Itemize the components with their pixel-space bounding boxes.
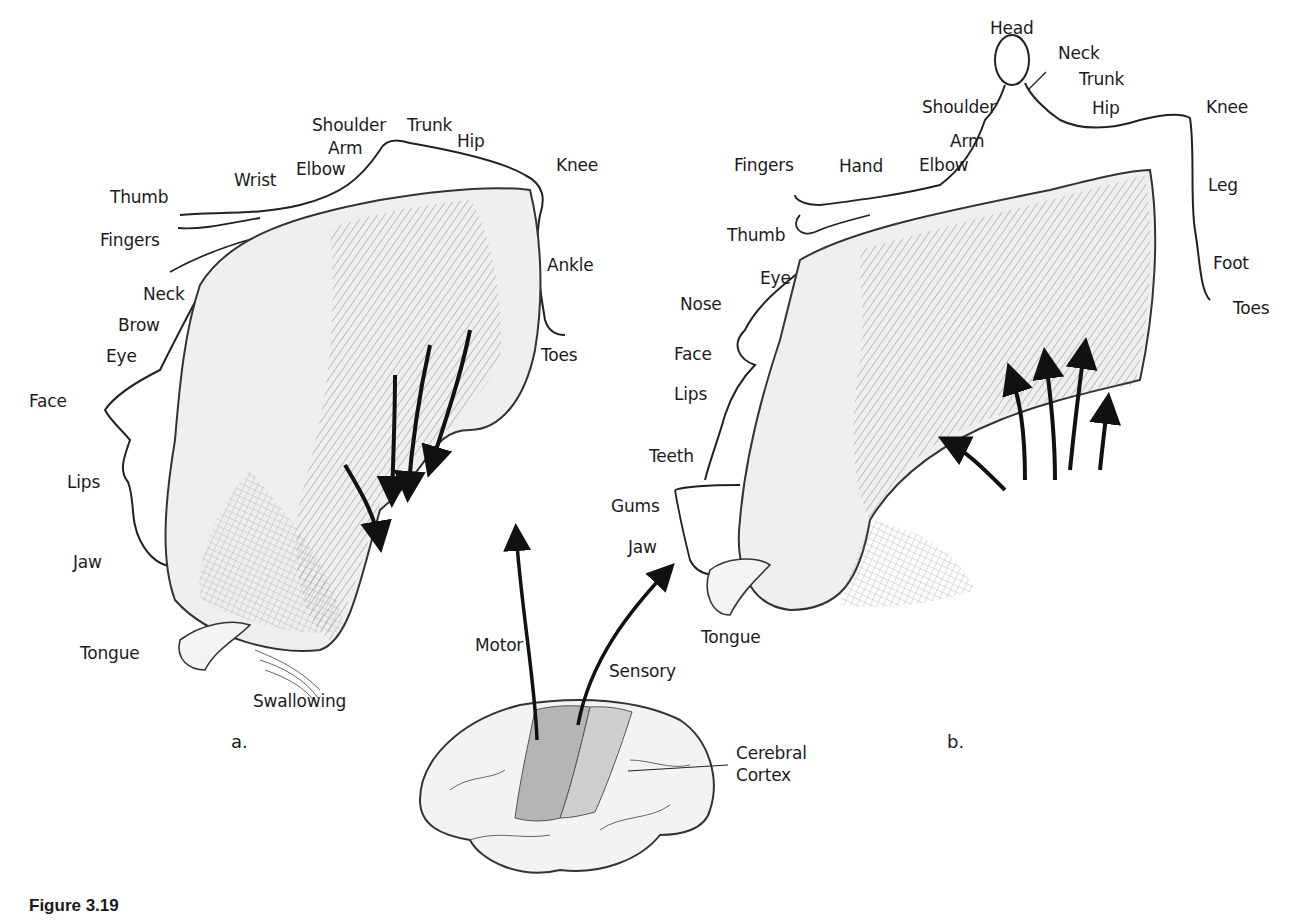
label-sensory: Sensory	[609, 663, 676, 680]
label-trunk-b: Trunk	[1079, 71, 1124, 88]
sensory-homunculus	[675, 35, 1210, 615]
label-motor: Motor	[475, 637, 523, 654]
label-fingers-b: Fingers	[734, 157, 794, 174]
label-jaw-a: Jaw	[73, 554, 102, 571]
label-leg-b: Leg	[1208, 177, 1238, 194]
label-neck-b: Neck	[1058, 45, 1100, 62]
label-arm-a: Arm	[328, 140, 362, 157]
label-toes-a: Toes	[541, 347, 577, 364]
panel-b-letter: b.	[947, 731, 964, 752]
label-knee-a: Knee	[556, 157, 598, 174]
label-nose-b: Nose	[680, 296, 722, 313]
label-trunk-a: Trunk	[407, 117, 452, 134]
figure-caption: Figure 3.19	[29, 896, 119, 916]
label-tongue-a: Tongue	[80, 645, 140, 662]
label-lips-b: Lips	[674, 386, 707, 403]
motor-homunculus	[105, 140, 565, 702]
label-head-b: Head	[990, 20, 1034, 37]
label-shoulder-a: Shoulder	[312, 117, 386, 134]
label-hip-a: Hip	[457, 133, 485, 150]
label-tongue-b: Tongue	[701, 629, 761, 646]
label-knee-b: Knee	[1206, 99, 1248, 116]
label-thumb-b: Thumb	[727, 227, 785, 244]
label-eye-b: Eye	[760, 270, 791, 287]
label-elbow-b: Elbow	[919, 157, 969, 174]
label-brow-a: Brow	[118, 317, 160, 334]
label-shoulder-b: Shoulder	[922, 99, 996, 116]
label-elbow-a: Elbow	[296, 161, 346, 178]
panel-a-letter: a.	[231, 731, 248, 752]
label-arm-b: Arm	[950, 133, 984, 150]
label-thumb-a: Thumb	[110, 189, 168, 206]
label-fingers-a: Fingers	[100, 232, 160, 249]
label-cerebral: Cerebral	[736, 745, 807, 762]
label-hand-b: Hand	[839, 158, 883, 175]
label-neck-a: Neck	[143, 286, 185, 303]
label-foot-b: Foot	[1213, 255, 1249, 272]
label-jaw-b: Jaw	[628, 539, 657, 556]
label-wrist-a: Wrist	[234, 172, 276, 189]
label-gums-b: Gums	[611, 498, 660, 515]
label-ankle-a: Ankle	[547, 257, 593, 274]
label-face-a: Face	[29, 393, 67, 410]
label-eye-a: Eye	[106, 348, 137, 365]
label-toes-b: Toes	[1233, 300, 1269, 317]
label-face-b: Face	[674, 346, 712, 363]
label-swallowing: Swallowing	[253, 693, 346, 710]
brain-illustration	[420, 530, 728, 873]
label-lips-a: Lips	[67, 474, 100, 491]
label-teeth-b: Teeth	[649, 448, 694, 465]
label-hip-b: Hip	[1092, 100, 1120, 117]
label-cortex: Cortex	[736, 767, 791, 784]
illustration	[0, 0, 1294, 922]
